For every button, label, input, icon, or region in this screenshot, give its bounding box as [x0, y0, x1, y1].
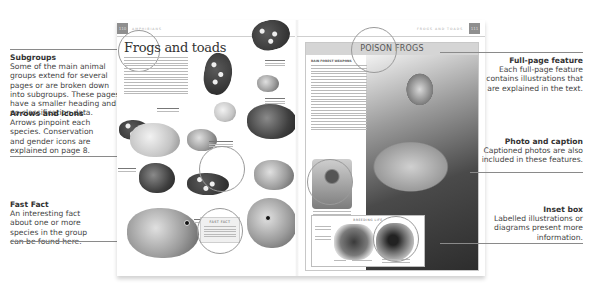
inset-label	[315, 226, 331, 231]
frog-illustration-horned-frog	[247, 104, 297, 139]
callout-fast-fact: Fast Fact An interesting fact about one …	[10, 200, 100, 246]
callout-text: Arrows pinpoint each species. Conservati…	[10, 118, 93, 155]
frog-illustration-glass-frog	[214, 102, 236, 122]
frog-illustration-reed-frog	[254, 160, 294, 190]
inset-label	[334, 260, 346, 263]
callout-title: Subgroups	[10, 53, 122, 62]
frog-eye	[265, 215, 271, 221]
body-text	[124, 57, 188, 96]
running-head: FROGS AND TOADS	[417, 27, 463, 31]
callout-text: Captioned photos are also included in th…	[482, 146, 583, 164]
page-number-box: 111	[469, 23, 480, 34]
highlight-circle-fast-fact	[197, 208, 243, 254]
feature-body-text	[311, 65, 367, 132]
highlight-circle-photo	[307, 159, 353, 205]
callout-rule-photo-and-caption	[470, 172, 583, 173]
species-caption	[265, 98, 285, 106]
callout-text: Labelled illustrations or diagrams prese…	[494, 214, 583, 241]
left-page: 110 AMPHIBIANS Frogs and toads	[117, 20, 297, 276]
frog-illustration-bullfrog	[127, 208, 199, 258]
inset-illustration-tadpoles	[334, 224, 374, 260]
highlight-circle-inset	[373, 216, 419, 262]
callout-arrows-and-icons: Arrows and icons Arrows pinpoint each sp…	[10, 109, 110, 155]
species-caption	[157, 108, 179, 113]
right-page: FROGS AND TOADS 111 POISON FROGS RAIN FO…	[297, 20, 485, 276]
callout-photo-and-caption: Photo and caption Captioned photos are a…	[480, 137, 583, 165]
frog-eye	[184, 220, 190, 226]
callout-title: Inset box	[480, 205, 583, 214]
callout-title: Full-page feature	[480, 56, 583, 65]
inset-label	[315, 236, 331, 241]
callout-inset-box: Inset box Labelled illustrations or diag…	[480, 205, 583, 242]
callout-title: Fast Fact	[10, 200, 100, 209]
frog-illustration-harlequin	[201, 51, 236, 97]
callout-subgroups: Subgroups Some of the main animal groups…	[10, 53, 122, 117]
highlight-circle-arrows	[199, 146, 245, 192]
callout-title: Arrows and icons	[10, 109, 110, 118]
highlight-circle-feature-title	[351, 27, 397, 73]
frog-illustration-tree-frog	[130, 123, 180, 157]
callout-rule-inset-box	[440, 243, 583, 244]
inset-label	[352, 260, 372, 263]
frog-illustration-cane-toad	[247, 198, 297, 248]
species-caption	[118, 168, 136, 173]
frog-illustration-spadefoot	[139, 163, 175, 193]
callout-rule-full-page-feature	[440, 52, 583, 53]
page-title: Frogs and toads	[124, 40, 226, 55]
species-caption	[265, 60, 285, 68]
page-number-box: 110	[117, 23, 128, 34]
feature-subhead: RAIN FOREST WEAPONS	[311, 59, 352, 63]
frog-illustration-poison-dart	[249, 20, 293, 54]
callout-text: Each full-page feature contains illustra…	[486, 65, 583, 92]
frog-illustration-toadlet	[257, 75, 279, 92]
callout-full-page-feature: Full-page feature Each full-page feature…	[480, 56, 583, 93]
book-spread: 110 AMPHIBIANS Frogs and toads	[117, 20, 485, 276]
callout-title: Photo and caption	[480, 137, 583, 146]
